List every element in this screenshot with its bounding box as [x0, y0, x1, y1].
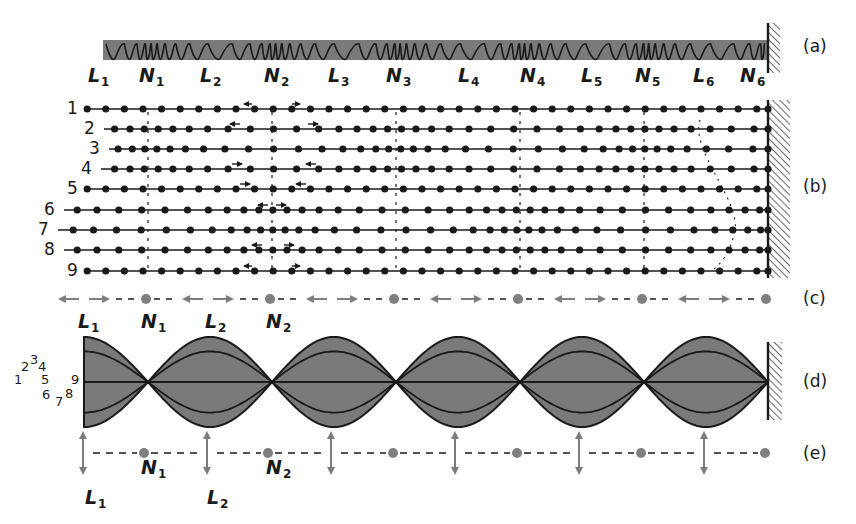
curve-number-label: 2 — [21, 360, 29, 373]
label-n4: N4 — [520, 66, 545, 88]
label-c-n1: N1 — [141, 312, 166, 334]
node-dot-icon — [761, 294, 771, 304]
particle-row — [84, 105, 772, 112]
wall-d — [768, 342, 782, 420]
panel-d-transverse-envelope — [84, 337, 768, 427]
node-dot-icon — [513, 294, 523, 304]
particle-row — [109, 145, 772, 152]
label-e-n1: N1 — [141, 458, 166, 480]
label-l5: L5 — [581, 66, 602, 88]
curve-number-label: 9 — [71, 373, 79, 386]
label-l4: L4 — [458, 66, 479, 88]
label-l1: L1 — [88, 66, 109, 88]
row-number-label: 7 — [38, 221, 49, 238]
node-dot-icon — [512, 448, 522, 458]
panel-tag-a: (a) — [803, 38, 827, 55]
particle-row — [84, 267, 772, 274]
particle-row — [64, 206, 772, 213]
panel-tag-b: (b) — [803, 178, 827, 195]
row-number-label: 4 — [81, 160, 92, 177]
node-dot-icon — [265, 294, 275, 304]
label-e-n2: N2 — [266, 458, 291, 480]
row-number-label: 9 — [67, 262, 78, 279]
node-dot-icon — [388, 448, 398, 458]
panel-b-particle-rows — [58, 100, 790, 278]
row-number-label: 6 — [44, 201, 55, 218]
particle-row — [58, 226, 772, 233]
particle-row — [101, 165, 772, 172]
curve-number-label: 6 — [42, 388, 50, 401]
row-number-label: 1 — [67, 100, 78, 117]
wall-b — [768, 100, 790, 278]
panel-tag-c: (c) — [803, 290, 826, 307]
label-n1: N1 — [139, 66, 164, 88]
panel-c-longitudinal-summary — [60, 294, 771, 304]
label-l3: L3 — [328, 66, 349, 88]
label-n6: N6 — [740, 66, 765, 88]
label-l6: L6 — [693, 66, 714, 88]
row-number-label: 8 — [44, 241, 55, 258]
panel-tag-e: (e) — [803, 445, 827, 462]
label-n3: N3 — [386, 66, 411, 88]
label-n2: N2 — [264, 66, 289, 88]
label-l2: L2 — [200, 66, 221, 88]
label-n5: N5 — [635, 66, 660, 88]
node-dot-icon — [637, 294, 647, 304]
label-e-l1: L1 — [85, 488, 106, 510]
node-dot-icon — [636, 448, 646, 458]
wall-a — [768, 23, 780, 73]
node-dot-icon — [141, 294, 151, 304]
label-c-l2: L2 — [205, 312, 226, 334]
curve-number-label: 5 — [41, 373, 49, 386]
curve-number-label: 1 — [14, 373, 22, 386]
particle-row — [84, 185, 772, 192]
panel-tag-d: (d) — [803, 373, 827, 390]
row-number-label: 2 — [84, 120, 95, 137]
row-number-label: 5 — [67, 180, 78, 197]
node-dot-icon — [389, 294, 399, 304]
label-c-l1: L1 — [78, 312, 99, 334]
particle-row — [104, 125, 772, 132]
curve-number-label: 8 — [65, 387, 73, 400]
panel-e-transverse-summary — [83, 433, 770, 473]
standing-wave-figure — [0, 0, 856, 524]
curve-number-label: 7 — [55, 395, 63, 408]
label-c-n2: N2 — [266, 312, 291, 334]
row-number-label: 3 — [89, 140, 100, 157]
label-e-l2: L2 — [207, 488, 228, 510]
node-dot-icon — [760, 448, 770, 458]
particle-row — [64, 246, 772, 253]
